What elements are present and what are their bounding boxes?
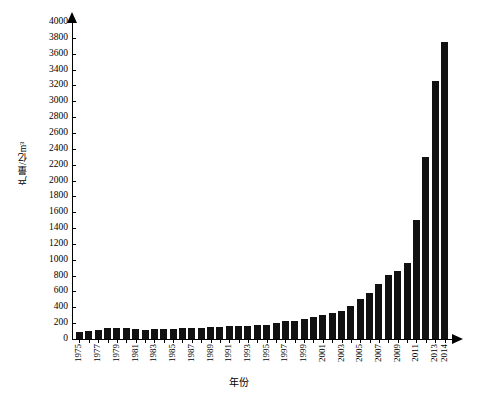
bar (357, 299, 364, 339)
bar (95, 330, 102, 340)
bar (123, 328, 130, 339)
x-axis-tick-label: 1993 (243, 344, 252, 362)
y-axis-tick (72, 38, 76, 39)
x-axis-tick (332, 339, 333, 343)
y-axis-tick (72, 165, 76, 166)
x-axis-tick (445, 339, 446, 343)
x-axis-tick (435, 339, 436, 343)
x-axis-tick (416, 339, 417, 343)
x-axis-tick (248, 339, 249, 343)
x-axis-tick-label: 1987 (187, 344, 196, 362)
bar (338, 311, 345, 339)
x-axis-tick (426, 339, 427, 343)
bar (104, 328, 111, 339)
y-axis-tick (72, 133, 76, 134)
y-axis-tick (72, 181, 76, 182)
y-axis-tick (72, 244, 76, 245)
bar (160, 329, 167, 339)
bar (254, 325, 261, 339)
x-axis-tick-label: 1985 (168, 344, 177, 362)
y-axis-tick-label: 1400 (24, 223, 68, 233)
x-axis-tick (313, 339, 314, 343)
y-axis-tick-label: 3000 (24, 96, 68, 106)
y-axis-tick-label: 2600 (24, 128, 68, 138)
y-axis-tick-label: 800 (24, 271, 68, 281)
y-axis-tick (72, 70, 76, 71)
bar (263, 325, 270, 339)
bar (404, 263, 411, 339)
bar (244, 326, 251, 339)
y-axis-tick (72, 228, 76, 229)
y-axis-tick (72, 291, 76, 292)
y-axis-tick-label: 2800 (24, 112, 68, 122)
x-axis-tick (398, 339, 399, 343)
x-axis-tick-label: 2009 (393, 344, 402, 362)
x-axis-tick-label: 2003 (337, 344, 346, 362)
x-axis-tick (370, 339, 371, 343)
y-axis-tick (72, 85, 76, 86)
x-axis-tick (79, 339, 80, 343)
x-axis-tick-label: 1999 (299, 344, 308, 362)
bar (76, 332, 83, 339)
x-axis-tick (201, 339, 202, 343)
x-axis-tick (360, 339, 361, 343)
x-axis-tick-label: 1981 (131, 344, 140, 362)
x-axis-tick (192, 339, 193, 343)
x-axis-tick-label: 1975 (74, 344, 83, 362)
bar (291, 321, 298, 339)
bar (151, 329, 158, 339)
x-axis-title: 年份 (0, 374, 477, 389)
bar (301, 319, 308, 339)
x-axis-tick (154, 339, 155, 343)
bar (132, 329, 139, 339)
x-axis-tick (211, 339, 212, 343)
x-axis-tick (117, 339, 118, 343)
bar (85, 331, 92, 339)
x-axis-tick (304, 339, 305, 343)
x-axis-tick-label: 1997 (280, 344, 289, 362)
x-axis-tick (182, 339, 183, 343)
y-axis-tick (72, 117, 76, 118)
bar (441, 42, 448, 339)
x-axis-tick (126, 339, 127, 343)
y-axis-tick-label: 600 (24, 286, 68, 296)
bar (273, 323, 280, 339)
bar (282, 321, 289, 339)
bar (319, 315, 326, 339)
x-axis-tick (276, 339, 277, 343)
y-axis-tick (72, 101, 76, 102)
x-axis-tick-label: 2014 (440, 344, 449, 362)
y-axis-tick (72, 323, 76, 324)
y-axis-tick-label: 1000 (24, 255, 68, 265)
bar (375, 284, 382, 339)
bar (310, 317, 317, 339)
x-axis-tick (145, 339, 146, 343)
bar (347, 306, 354, 339)
x-axis-tick (89, 339, 90, 343)
x-axis-tick (379, 339, 380, 343)
y-axis-tick (72, 22, 76, 23)
y-axis-tick (72, 260, 76, 261)
y-axis-tick-label: 3200 (24, 80, 68, 90)
bar (432, 81, 439, 339)
y-axis-tick (72, 307, 76, 308)
x-axis-tick (342, 339, 343, 343)
y-axis-tick-label: 0 (24, 334, 68, 344)
y-axis-tick-label: 3600 (24, 49, 68, 59)
bar (216, 327, 223, 339)
x-axis-tick-label: 1983 (149, 344, 158, 362)
y-axis-tick (72, 196, 76, 197)
x-axis-tick-label: 1977 (93, 344, 102, 362)
bar (179, 328, 186, 339)
bar (226, 326, 233, 339)
x-axis-tick (108, 339, 109, 343)
y-axis-tick-label: 1200 (24, 239, 68, 249)
x-axis-tick-label: 2007 (374, 344, 383, 362)
x-axis-tick (229, 339, 230, 343)
y-axis-tick-label: 400 (24, 302, 68, 312)
bar (188, 328, 195, 339)
bar (198, 328, 205, 339)
y-axis-tick-label: 4000 (24, 17, 68, 27)
bar (329, 313, 336, 339)
y-axis-tick-label: 3400 (24, 65, 68, 75)
